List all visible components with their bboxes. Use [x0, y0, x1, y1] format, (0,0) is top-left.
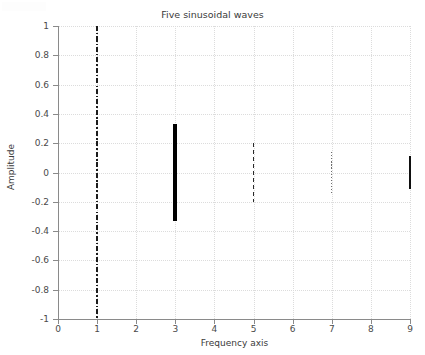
series-line-harmonic-1 — [96, 26, 99, 319]
y-tick-label: -0.8 — [9, 286, 49, 295]
y-tick-label: 0.4 — [9, 110, 49, 119]
y-tick — [53, 143, 58, 144]
x-tick-label: 8 — [359, 325, 383, 334]
gridline-horizontal — [59, 26, 410, 27]
gridline-horizontal — [59, 290, 410, 291]
gridline-horizontal — [59, 260, 410, 261]
y-tick — [53, 114, 58, 115]
y-tick-label: -0.6 — [9, 256, 49, 265]
x-tick-label: 4 — [202, 325, 226, 334]
y-tick — [53, 173, 58, 174]
x-tick-label: 9 — [398, 325, 422, 334]
gridline-horizontal — [59, 85, 410, 86]
y-tick — [53, 55, 58, 56]
y-axis-label: Amplitude — [6, 132, 16, 202]
gridline-horizontal — [59, 231, 410, 232]
x-tick-label: 6 — [281, 325, 305, 334]
series-line-harmonic-9 — [409, 156, 410, 188]
x-tick-label: 3 — [163, 325, 187, 334]
y-tick-label: 1 — [9, 22, 49, 31]
gridline-vertical — [371, 26, 372, 319]
gridline-horizontal — [59, 202, 410, 203]
gridline-horizontal — [59, 173, 410, 174]
x-tick-label: 1 — [85, 325, 109, 334]
x-axis-line — [58, 319, 411, 320]
series-line-harmonic-7 — [331, 152, 332, 193]
y-tick — [53, 85, 58, 86]
x-tick-label: 5 — [242, 325, 266, 334]
y-tick — [53, 260, 58, 261]
y-axis-line — [58, 26, 59, 320]
x-tick-label: 7 — [320, 325, 344, 334]
x-axis-label: Frequency axis — [58, 338, 411, 348]
series-line-harmonic-5 — [253, 143, 255, 202]
y-tick-label: 0.6 — [9, 81, 49, 90]
gridline-vertical — [293, 26, 294, 319]
series-line-harmonic-3 — [173, 124, 177, 221]
chart-title: Five sinusoidal waves — [0, 9, 425, 20]
y-tick-label: -0.4 — [9, 227, 49, 236]
y-tick — [53, 202, 58, 203]
gridline-horizontal — [59, 114, 410, 115]
y-tick — [53, 26, 58, 27]
y-tick — [53, 290, 58, 291]
y-tick — [53, 231, 58, 232]
gridline-vertical — [136, 26, 137, 319]
gridline-vertical — [214, 26, 215, 319]
x-tick-label: 2 — [124, 325, 148, 334]
gridline-horizontal — [59, 55, 410, 56]
y-tick-label: -1 — [9, 315, 49, 324]
gridline-horizontal — [59, 143, 410, 144]
x-tick-label: 0 — [46, 325, 70, 334]
chart-figure: Five sinusoidal waves 10.80.60.40.20-0.2… — [0, 0, 425, 355]
y-tick-label: 0.8 — [9, 51, 49, 60]
